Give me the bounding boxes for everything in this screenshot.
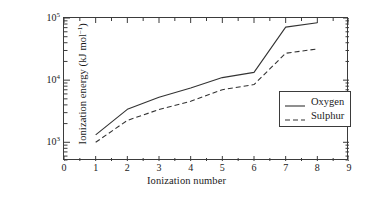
plot-area: 103104105 0123456789 Ionization energy (…: [63, 17, 348, 160]
x-tick-label: 4: [188, 163, 193, 173]
x-axis-title: Ionization number: [0, 176, 373, 187]
y-axis-title-tail: ): [77, 23, 88, 27]
x-tick-label: 2: [125, 163, 130, 173]
x-tick-label: 7: [283, 163, 288, 173]
x-tick-label: 1: [93, 163, 98, 173]
legend-item-oxygen: Oxygen: [284, 95, 344, 109]
y-axis-title-main: Ionization energy (kJ mol: [77, 34, 88, 145]
x-tick-label: 6: [252, 163, 257, 173]
legend-swatch-dashed-icon: [284, 111, 306, 121]
legend-box: OxygenSulphur: [279, 91, 351, 127]
y-axis-title: Ionization energy (kJ mol–1): [77, 0, 89, 179]
y-axis-title-exponent: –1: [76, 27, 84, 34]
x-tick-label: 3: [157, 163, 162, 173]
legend-label: Oxygen: [311, 97, 344, 108]
axis-ticks: [64, 18, 349, 161]
x-tick-label: 5: [220, 163, 225, 173]
x-tick-label: 8: [315, 163, 320, 173]
y-tick-label: 105: [47, 13, 61, 23]
chart-figure: 103104105 0123456789 Ionization energy (…: [0, 0, 373, 200]
legend-label: Sulphur: [311, 111, 344, 122]
y-tick-label: 104: [47, 75, 61, 85]
y-tick-label: 103: [47, 137, 61, 147]
plot-canvas: [64, 18, 349, 161]
legend-swatch-solid-icon: [284, 97, 306, 107]
legend-item-sulphur: Sulphur: [284, 109, 344, 123]
x-tick-label: 0: [62, 163, 67, 173]
x-tick-label: 9: [347, 163, 352, 173]
